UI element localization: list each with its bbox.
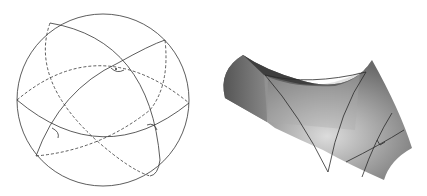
saddle-surface [223, 55, 412, 180]
sphere-diagram [0, 0, 427, 196]
geometry-figure [0, 0, 427, 196]
